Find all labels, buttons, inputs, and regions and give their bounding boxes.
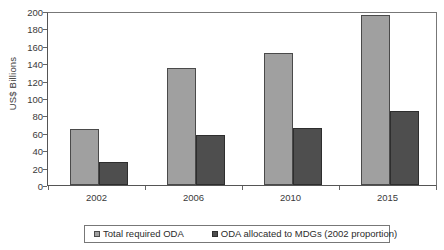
y-tick-mark: [43, 29, 47, 30]
legend-swatch-icon-series-1: [212, 231, 218, 237]
bar-2010-series-0: [264, 53, 293, 185]
x-tick-mark: [48, 186, 49, 190]
y-tick-mark: [43, 151, 47, 152]
y-tick-mark: [43, 82, 47, 83]
x-tick-mark: [145, 186, 146, 190]
bar-2002-series-0: [70, 129, 99, 185]
y-tick-mark: [43, 12, 47, 13]
legend-label-series-0: Total required ODA: [103, 229, 184, 239]
y-tick-label: 20: [3, 163, 43, 174]
y-tick-label: 140: [3, 59, 43, 70]
x-tick-label: 2010: [261, 192, 321, 203]
x-tick-mark: [436, 186, 437, 190]
bar-group: [145, 13, 242, 185]
bar-2010-series-1: [293, 128, 322, 185]
y-tick-label: 60: [3, 128, 43, 139]
bar-2002-series-1: [99, 162, 128, 185]
bar-2006-series-1: [196, 135, 225, 185]
bar-2006-series-0: [167, 68, 196, 185]
y-tick-label: 160: [3, 41, 43, 52]
y-tick-mark: [43, 134, 47, 135]
legend-label-series-1: ODA allocated to MDGs (2002 proportion): [221, 229, 397, 239]
chart-legend: Total required ODA ODA allocated to MDGs…: [84, 225, 390, 243]
legend-item-oda-allocated-to-mdgs: ODA allocated to MDGs (2002 proportion): [212, 229, 397, 239]
bar-2015-series-0: [361, 15, 390, 185]
y-tick-mark: [43, 99, 47, 100]
y-tick-label: 80: [3, 111, 43, 122]
x-tick-label: 2006: [164, 192, 224, 203]
legend-item-total-required-oda: Total required ODA: [94, 229, 184, 239]
bar-group: [339, 13, 436, 185]
y-tick-mark: [43, 116, 47, 117]
legend-swatch-icon-series-0: [94, 231, 100, 237]
y-tick-label: 120: [3, 76, 43, 87]
x-tick-mark: [242, 186, 243, 190]
y-tick-label: 180: [3, 24, 43, 35]
bar-2015-series-1: [390, 111, 419, 185]
y-tick-label: 0: [3, 181, 43, 192]
x-tick-label: 2002: [67, 192, 127, 203]
y-tick-label: 100: [3, 94, 43, 105]
x-tick-label: 2015: [358, 192, 418, 203]
y-tick-mark: [43, 186, 47, 187]
x-tick-mark: [339, 186, 340, 190]
bar-group: [242, 13, 339, 185]
bar-chart: US$ Billions 020406080100120140160180200…: [0, 0, 444, 250]
y-tick-mark: [43, 47, 47, 48]
y-tick-label: 40: [3, 146, 43, 157]
y-tick-mark: [43, 169, 47, 170]
bars-layer: [48, 13, 436, 185]
bar-group: [48, 13, 145, 185]
y-tick-label: 200: [3, 7, 43, 18]
y-tick-mark: [43, 64, 47, 65]
